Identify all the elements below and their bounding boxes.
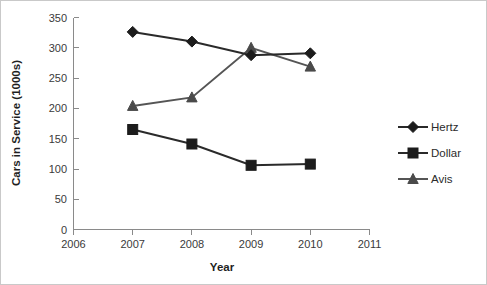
x-axis-ticks xyxy=(74,230,370,235)
axis-group xyxy=(74,18,370,235)
diamond-marker-icon xyxy=(408,122,419,133)
legend-item-avis[interactable]: Avis xyxy=(398,173,453,185)
x-tick-label-2006: 2006 xyxy=(61,238,85,250)
legend-label-hertz: Hertz xyxy=(431,121,459,133)
series-hertz-point-2008 xyxy=(186,36,197,47)
y-tick-label-50: 50 xyxy=(55,193,67,205)
series-avis-line xyxy=(133,48,311,106)
line-chart-plot: 350 300 250 200 150 100 50 0 2006 2007 2… xyxy=(1,1,487,285)
series-dollar-point-2007 xyxy=(128,125,138,135)
series-hertz-point-2010 xyxy=(305,48,316,59)
legend-label-avis: Avis xyxy=(431,173,453,185)
y-tick-label-300: 300 xyxy=(49,42,67,54)
legend-item-hertz[interactable]: Hertz xyxy=(398,121,459,133)
x-tick-labels: 2006 2007 2008 2009 2010 2011 xyxy=(61,238,381,250)
series-dollar-line xyxy=(133,130,311,166)
y-tick-label-200: 200 xyxy=(49,102,67,114)
y-tick-label-250: 250 xyxy=(49,72,67,84)
series-dollar-point-2008 xyxy=(187,139,197,149)
legend-item-dollar[interactable]: Dollar xyxy=(398,147,461,159)
y-tick-label-150: 150 xyxy=(49,133,67,145)
series-avis xyxy=(128,42,316,110)
chart-figure: 350 300 250 200 150 100 50 0 2006 2007 2… xyxy=(0,0,487,285)
series-hertz-line xyxy=(133,32,311,55)
series-hertz-point-2007 xyxy=(127,26,138,37)
x-axis-title: Year xyxy=(210,261,235,273)
x-tick-label-2011: 2011 xyxy=(358,238,382,250)
y-tick-label-100: 100 xyxy=(49,163,67,175)
x-tick-label-2008: 2008 xyxy=(180,238,204,250)
y-tick-label-350: 350 xyxy=(49,12,67,24)
legend-label-dollar: Dollar xyxy=(431,147,461,159)
y-axis-title: Cars in Service (1000s) xyxy=(10,60,22,186)
x-tick-label-2010: 2010 xyxy=(298,238,322,250)
series-dollar-point-2010 xyxy=(305,159,315,169)
y-axis-ticks xyxy=(74,18,79,230)
chart-legend: Hertz Dollar Avis xyxy=(398,121,461,185)
series-dollar-point-2009 xyxy=(246,160,256,170)
square-marker-icon xyxy=(408,148,418,158)
x-tick-label-2007: 2007 xyxy=(120,238,144,250)
y-tick-label-0: 0 xyxy=(61,224,67,236)
series-dollar xyxy=(128,125,316,171)
series-hertz xyxy=(127,26,316,60)
x-tick-label-2009: 2009 xyxy=(239,238,263,250)
y-tick-labels: 350 300 250 200 150 100 50 0 xyxy=(49,12,67,236)
